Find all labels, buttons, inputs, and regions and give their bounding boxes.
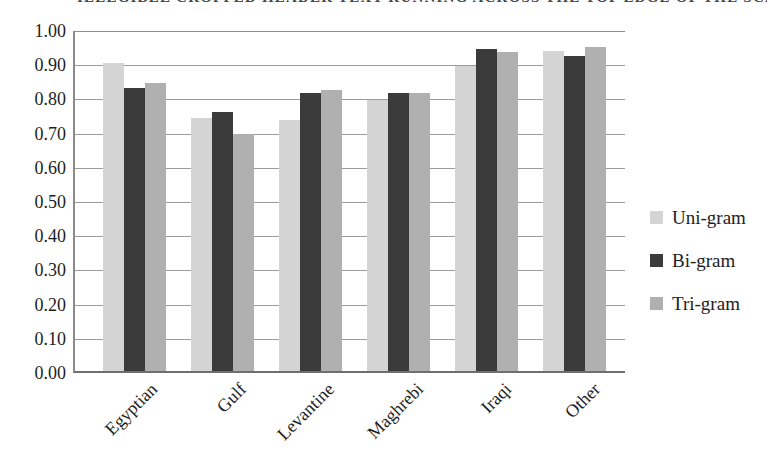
x-category-label-gulf: Gulf xyxy=(212,379,250,417)
plot-area xyxy=(73,31,625,373)
bar-uni-gram-gulf xyxy=(191,118,212,371)
bar-uni-gram-other xyxy=(543,51,564,371)
legend-item-uni-gram: Uni-gram xyxy=(650,208,746,227)
y-tick-label: 0.30 xyxy=(14,260,66,280)
y-tick-label: 0.20 xyxy=(14,295,66,315)
bar-uni-gram-egyptian xyxy=(103,63,124,371)
bar-bi-gram-levantine xyxy=(300,93,321,371)
bar-tri-gram-egyptian xyxy=(145,83,166,371)
y-tick-label: 0.00 xyxy=(14,363,66,383)
bar-group-other xyxy=(531,32,619,371)
y-tick-label: 0.80 xyxy=(14,89,66,109)
y-tick-label: 0.40 xyxy=(14,226,66,246)
y-tick-label: 0.70 xyxy=(14,124,66,144)
bar-uni-gram-maghrebi xyxy=(367,100,388,371)
bar-group-gulf xyxy=(178,32,266,371)
y-tick-label: 1.00 xyxy=(14,21,66,41)
bar-group-maghrebi xyxy=(355,32,443,371)
bar-tri-gram-other xyxy=(585,47,606,371)
bar-bi-gram-iraqi xyxy=(476,49,497,371)
y-tick-label: 0.60 xyxy=(14,158,66,178)
bar-tri-gram-gulf xyxy=(233,134,254,371)
x-category-label-egyptian: Egyptian xyxy=(101,379,162,440)
x-category-label-levantine: Levantine xyxy=(273,379,339,445)
y-tick-label: 0.90 xyxy=(14,55,66,75)
x-category-label-iraqi: Iraqi xyxy=(477,379,516,418)
bar-bi-gram-other xyxy=(564,56,585,371)
bar-group-egyptian xyxy=(90,32,178,371)
bar-bi-gram-maghrebi xyxy=(388,93,409,371)
x-category-label-maghrebi: Maghrebi xyxy=(363,379,427,443)
y-tick-label: 0.10 xyxy=(14,329,66,349)
legend-label-tri-gram: Tri-gram xyxy=(672,294,740,313)
bar-groups xyxy=(90,32,619,371)
legend-swatch-tri-gram xyxy=(650,297,663,310)
cropped-text-top: ILLEGIBLE CROPPED HEADER TEXT RUNNING AC… xyxy=(77,0,767,6)
bar-tri-gram-iraqi xyxy=(497,52,518,371)
legend-item-tri-gram: Tri-gram xyxy=(650,294,746,313)
bar-bi-gram-egyptian xyxy=(124,88,145,371)
bar-uni-gram-levantine xyxy=(279,120,300,371)
x-category-label-other: Other xyxy=(561,379,605,423)
legend-swatch-bi-gram xyxy=(650,254,663,267)
bar-tri-gram-levantine xyxy=(321,90,342,371)
legend: Uni-gramBi-gramTri-gram xyxy=(650,208,746,313)
bar-group-iraqi xyxy=(443,32,531,371)
cropped-text-fragment: ILLEGIBLE CROPPED HEADER TEXT RUNNING AC… xyxy=(77,0,767,6)
legend-label-uni-gram: Uni-gram xyxy=(672,208,746,227)
bar-bi-gram-gulf xyxy=(212,112,233,371)
bar-uni-gram-iraqi xyxy=(455,66,476,371)
legend-swatch-uni-gram xyxy=(650,211,663,224)
bar-group-levantine xyxy=(266,32,354,371)
legend-label-bi-gram: Bi-gram xyxy=(672,251,735,270)
bar-tri-gram-maghrebi xyxy=(409,93,430,371)
scanned-figure-page: ILLEGIBLE CROPPED HEADER TEXT RUNNING AC… xyxy=(0,0,781,472)
legend-item-bi-gram: Bi-gram xyxy=(650,251,746,270)
y-tick-label: 0.50 xyxy=(14,192,66,212)
